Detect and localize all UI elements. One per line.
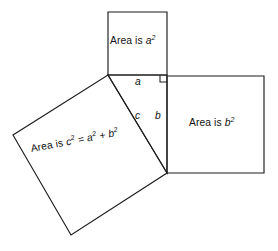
square-on-hypotenuse-c [13,75,167,235]
right-triangle [108,75,167,173]
leg-a-label: a [135,77,141,87]
square-b-area-label-exponent: 2 [231,116,235,123]
square-a-area-label: Area is a2 [110,36,156,46]
leg-b-label: b [155,111,161,121]
square-b-area-label: Area is b2 [189,118,235,128]
right-angle-marker-icon [160,75,167,82]
square-a-area-label-prefix: Area is [110,35,146,46]
square-b-area-label-prefix: Area is [189,117,225,128]
pythagorean-theorem-figure: Area is a2 Area is b2 Area is c2 = a2 + … [0,0,278,251]
square-a-area-label-exponent: 2 [152,34,156,41]
hypotenuse-c-label: c [135,111,140,121]
